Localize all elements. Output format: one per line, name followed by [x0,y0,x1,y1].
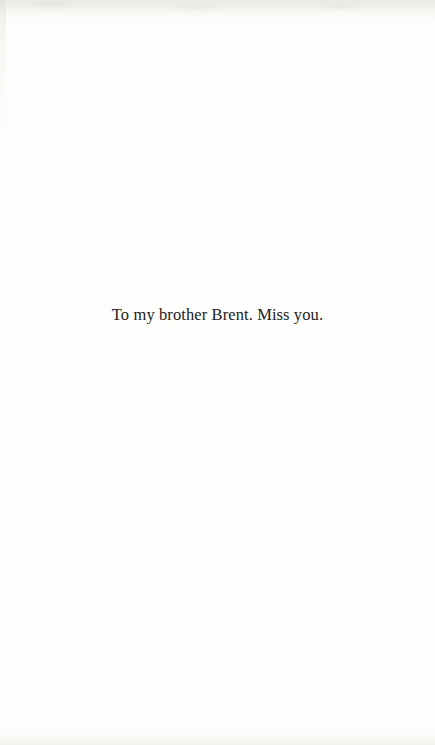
page-left-scan-shadow [0,0,6,140]
page-bottom-scan-shadow [0,731,435,745]
book-page: To my brother Brent. Miss you. [0,0,435,745]
dedication-text: To my brother Brent. Miss you. [0,303,435,327]
page-top-scan-shadow [0,0,435,22]
